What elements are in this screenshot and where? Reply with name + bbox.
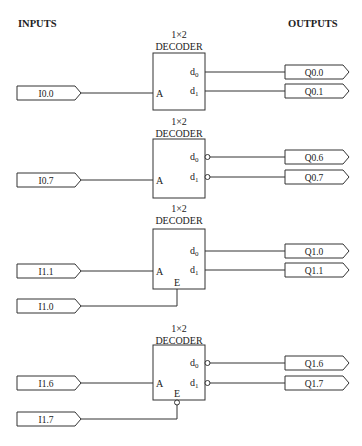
output-tag-label: Q1.1 [305,266,324,276]
output-tag-q0-7[interactable]: Q0.7 [285,170,349,184]
input-tag-label: I1.7 [38,415,53,425]
input-tag-label: I0.0 [38,89,53,99]
input-tag-label: I0.7 [38,176,53,186]
input-tag-i1-7[interactable]: I1.7 [17,412,81,426]
decoder-title: DECODER [155,335,203,346]
pin-a-label: A [156,378,164,389]
decoder-size-label: 1×2 [171,116,187,127]
pin-subscript: 1 [195,382,199,390]
output-tag-label: Q0.7 [305,173,324,183]
pin-e-label: E [174,388,180,399]
inputs-header: INPUTS [18,18,57,29]
decoder-block-1: 1×2DECODERAd0Q0.0d1Q0.1I0.0 [17,29,349,110]
output-tag-q0-1[interactable]: Q0.1 [285,84,349,98]
input-tag-i0-0[interactable]: I0.0 [17,86,81,100]
pin-subscript: 1 [195,269,199,277]
output-tag-label: Q1.6 [305,359,324,369]
pin-subscript: 1 [195,90,199,98]
input-tag-label: I1.6 [38,379,53,389]
inversion-bubble [205,155,210,160]
enable-inversion-bubble [175,400,180,405]
output-tag-q1-1[interactable]: Q1.1 [285,263,349,277]
pin-e-label: E [174,277,180,288]
decoder-title: DECODER [155,41,203,52]
decoder-box [153,53,205,110]
output-tag-q0-0[interactable]: Q0.0 [285,65,349,79]
output-tag-label: Q1.7 [305,379,324,389]
enable-wire [81,289,177,306]
decoder-size-label: 1×2 [171,323,187,334]
pin-subscript: 1 [195,176,199,184]
inversion-bubble [205,361,210,366]
output-tag-q1-6[interactable]: Q1.6 [285,356,349,370]
decoder-block-4: 1×2DECODERAd0Q1.6d1Q1.7I1.6EI1.7 [17,323,349,426]
input-tag-i0-7[interactable]: I0.7 [17,173,81,187]
input-tag-i1-1[interactable]: I1.1 [17,264,81,278]
pin-subscript: 0 [195,250,199,258]
decoder-block-2: 1×2DECODERAd0Q0.6d1Q0.7I0.7 [17,116,349,198]
input-tag-label: I1.1 [38,267,53,277]
pin-subscript: 0 [195,362,199,370]
decoder-title: DECODER [155,128,203,139]
output-tag-label: Q0.1 [305,87,324,97]
output-tag-q0-6[interactable]: Q0.6 [285,150,349,164]
pin-subscript: 0 [195,156,199,164]
pin-a-label: A [156,175,164,186]
pin-a-label: A [156,88,164,99]
decoder-block-3: 1×2DECODERAd0Q1.0d1Q1.1I1.1EI1.0 [17,203,349,313]
input-tag-i1-6[interactable]: I1.6 [17,376,81,390]
outputs-header: OUTPUTS [288,18,338,29]
enable-wire [81,405,177,419]
inversion-bubble [205,175,210,180]
pin-subscript: 0 [195,71,199,79]
output-tag-label: Q0.0 [305,68,324,78]
inversion-bubble [205,381,210,386]
pin-a-label: A [156,266,164,277]
decoder-diagram: INPUTS OUTPUTS 1×2DECODERAd0Q0.0d1Q0.1I0… [0,0,362,446]
output-tag-label: Q1.0 [305,247,324,257]
input-tag-label: I1.0 [38,302,53,312]
output-tag-label: Q0.6 [305,153,324,163]
output-tag-q1-0[interactable]: Q1.0 [285,244,349,258]
decoder-size-label: 1×2 [171,29,187,40]
decoder-size-label: 1×2 [171,203,187,214]
output-tag-q1-7[interactable]: Q1.7 [285,376,349,390]
decoder-box [153,139,205,198]
input-tag-i1-0[interactable]: I1.0 [17,299,81,313]
decoder-title: DECODER [155,215,203,226]
